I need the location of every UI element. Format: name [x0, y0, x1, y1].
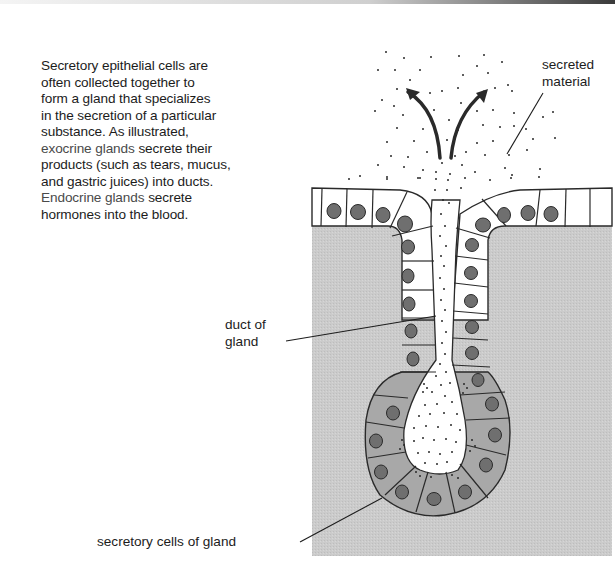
- label-line: gland: [225, 333, 266, 350]
- label-line: secreted: [542, 56, 594, 73]
- secretion-arrows: [408, 92, 484, 158]
- label-secretory-cells: secretory cells of gland: [97, 533, 236, 550]
- label-line: duct of: [225, 316, 266, 333]
- gland-diagram: [0, 0, 615, 580]
- label-secreted-material: secreted material: [542, 56, 594, 90]
- arrow-left-icon: [408, 92, 440, 158]
- leader-secreted-material: [507, 93, 543, 154]
- arrow-right-icon: [451, 92, 484, 158]
- label-duct-of-gland: duct of gland: [225, 316, 266, 350]
- label-line: material: [542, 73, 594, 90]
